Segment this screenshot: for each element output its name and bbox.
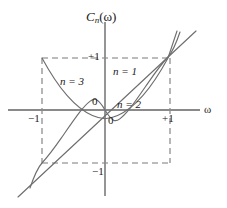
y-tick-plus-one: +1 [88,51,100,62]
x-tick-plus-one: +1 [162,113,174,124]
curve-label-n3: n = 3 [60,76,84,87]
origin-label-upper-left: 0 [92,96,98,107]
plot-title: Cn(ω) [86,10,116,25]
origin-label-lower-right: 0 [108,115,114,126]
title-argument: (ω) [99,9,116,24]
plot-canvas [0,0,227,208]
x-axis-label: ω [204,104,211,115]
curve-label-n2: n = 2 [117,99,141,110]
title-base: C [86,9,95,24]
y-tick-minus-one: −1 [92,166,104,177]
x-tick-minus-one: −1 [28,113,40,124]
curve-label-n1: n = 1 [113,66,137,77]
chebyshev-polynomials-figure: Cn(ω) +1 −1 −1 +1 ω 0 0 n = 3 n = 1 n = … [0,0,227,208]
